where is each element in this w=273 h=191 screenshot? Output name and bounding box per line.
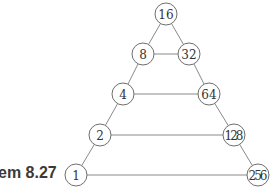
node-32: 32	[178, 43, 200, 65]
node-4: 4	[112, 83, 134, 105]
node-64: 64	[198, 83, 220, 105]
triangle-diagram: 1683246421281256	[0, 0, 273, 191]
node-label: 64	[201, 88, 217, 102]
node-128: 128	[223, 124, 245, 146]
node-256: 256	[247, 164, 269, 186]
node-label: 256	[249, 169, 268, 183]
node-16: 16	[155, 3, 177, 25]
node-1: 1	[65, 164, 87, 186]
edges-layer	[76, 14, 258, 175]
node-label: 32	[181, 48, 196, 62]
node-2: 2	[89, 124, 111, 146]
node-label: 128	[225, 129, 244, 143]
node-8: 8	[132, 43, 154, 65]
node-label: 8	[139, 48, 147, 62]
node-label: 1	[72, 169, 80, 183]
node-label: 16	[158, 8, 173, 22]
node-label: 2	[96, 129, 104, 143]
node-label: 4	[119, 88, 127, 102]
